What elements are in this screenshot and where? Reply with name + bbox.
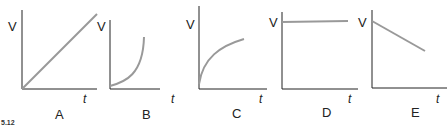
panel-d-curve [282, 21, 348, 22]
graphs-canvas [0, 0, 448, 128]
panel-e [372, 10, 447, 88]
panel-a-curve [22, 14, 97, 89]
panel-b-ylabel: V [97, 19, 106, 34]
panel-b-curve [110, 37, 144, 86]
panel-d-ylabel: V [269, 15, 278, 30]
panel-c-curve [199, 39, 244, 84]
panel-b [110, 20, 160, 89]
panel-a [22, 10, 97, 89]
panel-b-xlabel: t [171, 92, 174, 106]
panel-d [282, 12, 358, 89]
panel-d-caption: D [322, 105, 331, 120]
panel-e-curve [372, 21, 425, 51]
figure-label: 5.12 [1, 119, 15, 126]
panel-d-xlabel: t [348, 92, 351, 106]
panel-a-xlabel: t [83, 92, 86, 106]
panel-c-ylabel: V [186, 17, 195, 32]
panel-a-ylabel: V [8, 19, 17, 34]
panel-e-xlabel: t [436, 92, 439, 106]
panel-b-caption: B [142, 107, 151, 122]
panel-c-xlabel: t [259, 92, 262, 106]
panel-c [199, 6, 267, 89]
panel-c-caption: C [232, 106, 241, 121]
panel-e-ylabel: V [358, 15, 367, 30]
panel-e-caption: E [411, 105, 420, 120]
panel-a-caption: A [55, 107, 64, 122]
